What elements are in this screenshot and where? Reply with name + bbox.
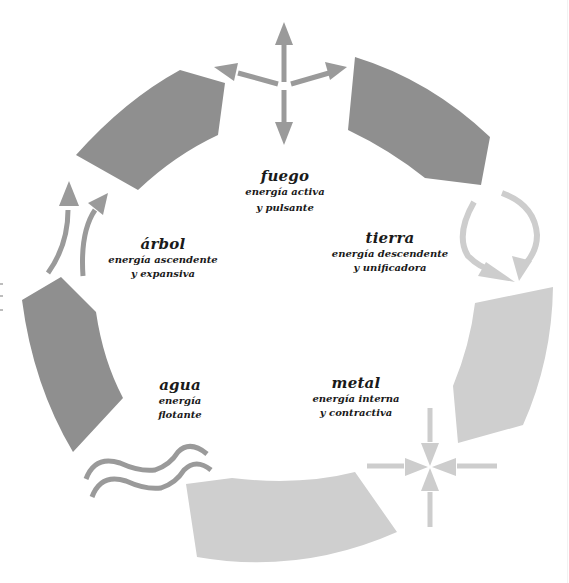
element-description-line1: energía ascendente [98, 253, 228, 267]
circular-down-arrows-icon [463, 193, 537, 282]
element-description-line2: flotante [135, 408, 225, 422]
element-description-line1: energía interna [296, 392, 416, 406]
element-name: árbol [98, 236, 228, 253]
segment-metal [186, 472, 397, 562]
left-edge-artifact [0, 283, 3, 285]
element-name: metal [296, 375, 416, 392]
label-arbol: árbol energía ascendente y expansiva [98, 236, 228, 281]
left-edge-artifact [0, 295, 3, 297]
element-description-line2: y unificadora [325, 261, 455, 275]
element-description-line1: energía activa [225, 185, 345, 199]
element-description-line2: y expansiva [98, 267, 228, 281]
element-description-line1: energía [135, 394, 225, 408]
element-description-line2: y pulsante [225, 201, 345, 215]
element-name: agua [135, 377, 225, 394]
segment-agua [22, 277, 123, 452]
five-elements-diagram [0, 0, 569, 583]
segment-fuego-tierra [348, 57, 490, 185]
label-agua: agua energía flotante [135, 377, 225, 422]
element-name: tierra [325, 230, 455, 247]
element-description-line2: y contractiva [296, 406, 416, 420]
left-edge-artifact [0, 309, 3, 311]
label-fuego: fuego energía activa y pulsante [225, 168, 345, 215]
segment-fuego-arbol [76, 70, 225, 190]
segment-tierra [453, 287, 553, 443]
label-tierra: tierra energía descendente y unificadora [325, 230, 455, 275]
element-name: fuego [225, 168, 345, 185]
label-metal: metal energía interna y contractiva [296, 375, 416, 420]
outward-arrows-icon [214, 22, 347, 145]
right-edge-border [567, 0, 568, 583]
element-description-line1: energía descendente [325, 247, 455, 261]
